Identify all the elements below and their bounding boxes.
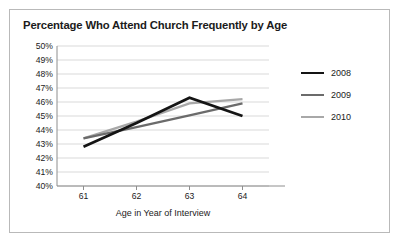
y-tick-label: 47%	[23, 83, 53, 93]
x-tick-label: 62	[120, 191, 154, 201]
legend-swatch-2010	[301, 116, 324, 118]
data-series-lines	[57, 46, 269, 186]
x-axis-title: Age in Year of Interview	[57, 208, 269, 218]
y-axis-tick-labels: 50%49%48%47%46%45%44%43%42%41%40%	[21, 46, 53, 186]
y-tick-label: 44%	[23, 125, 53, 135]
chart-title: Percentage Who Attend Church Frequently …	[23, 19, 287, 31]
legend-label: 2010	[331, 112, 351, 122]
y-tick-label: 40%	[23, 181, 53, 191]
legend-swatch-2009	[301, 94, 324, 96]
x-axis-tick-labels: 61626364	[57, 191, 269, 205]
y-tick-label: 45%	[23, 111, 53, 121]
y-tick-label: 42%	[23, 153, 53, 163]
y-tick-label: 49%	[23, 55, 53, 65]
legend-item-2010[interactable]: 2010	[301, 106, 385, 128]
x-tick-label: 64	[226, 191, 260, 201]
legend-swatch-2008	[301, 72, 324, 74]
chart-legend: 200820092010	[301, 62, 385, 128]
legend-item-2009[interactable]: 2009	[301, 84, 385, 106]
legend-label: 2008	[331, 68, 351, 78]
legend-item-2008[interactable]: 2008	[301, 62, 385, 84]
plot-area	[57, 46, 269, 186]
y-tick-label: 43%	[23, 139, 53, 149]
y-tick-label: 48%	[23, 69, 53, 79]
x-tick-label: 63	[173, 191, 207, 201]
y-tick-label: 46%	[23, 97, 53, 107]
y-tick-label: 41%	[23, 167, 53, 177]
x-tick-label: 61	[67, 191, 101, 201]
chart-figure: Percentage Who Attend Church Frequently …	[9, 9, 390, 233]
legend-label: 2009	[331, 90, 351, 100]
y-tick-label: 50%	[23, 41, 53, 51]
